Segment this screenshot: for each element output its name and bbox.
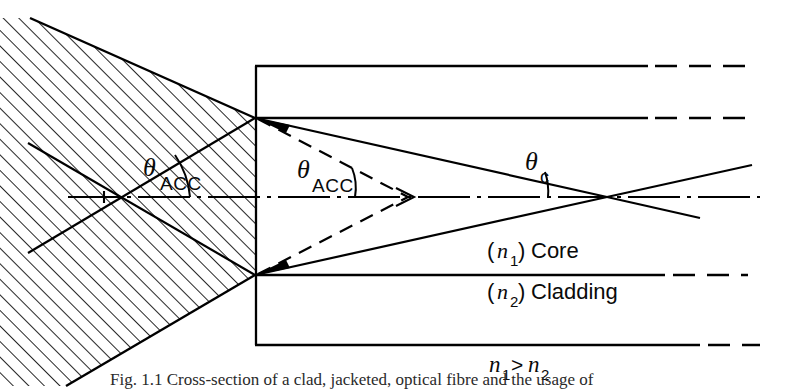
core-name: Core bbox=[531, 238, 579, 263]
cladding-index-symbol: n bbox=[497, 279, 508, 304]
theta-critical-symbol: θ bbox=[525, 147, 538, 176]
theta-acc-internal-symbol: θ bbox=[297, 155, 310, 184]
figure-caption-cropped: Fig. 1.1 Cross-section of a clad, jacket… bbox=[0, 372, 791, 391]
cladding-name: Cladding bbox=[531, 279, 618, 304]
theta-acc-external-symbol: θ bbox=[143, 153, 156, 182]
diagram-canvas: θ ACC θ ACC θ c ( n 1 ) Core ( n 2 ) Cla… bbox=[0, 0, 791, 391]
fibre-acceptance-cone-figure: θ ACC θ ACC θ c ( n 1 ) Core ( n 2 ) Cla… bbox=[0, 0, 791, 391]
theta-acc-internal-subscript: ACC bbox=[312, 175, 354, 196]
core-paren-open: ( bbox=[487, 238, 495, 263]
theta-critical-subscript: c bbox=[540, 167, 549, 187]
cladding-paren-close: ) bbox=[518, 279, 525, 304]
cladding-paren-open: ( bbox=[487, 279, 495, 304]
theta-acc-external-subscript: ACC bbox=[160, 173, 202, 194]
core-paren-close: ) bbox=[518, 238, 525, 263]
figure-caption-text: Fig. 1.1 Cross-section of a clad, jacket… bbox=[110, 372, 593, 390]
core-index-symbol: n bbox=[497, 238, 508, 263]
